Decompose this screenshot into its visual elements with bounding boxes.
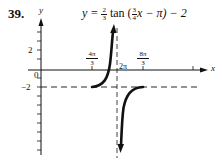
x-tick-label-8pi-3: 8π3 (137, 50, 149, 67)
y-axis-label: y (39, 5, 43, 15)
origin-label: 0 (34, 70, 39, 80)
curve-arrow-up-icon (110, 24, 116, 33)
x-axis-arrow-icon (200, 68, 208, 73)
x-tick-label-2pi: 2π (119, 62, 127, 71)
x-tick-label-4pi-3: 4π3 (86, 50, 98, 67)
y-axis-arrow-icon (39, 18, 44, 26)
curve-arrow-down-icon (118, 144, 125, 153)
curve-branch-right (121, 87, 143, 146)
y-tick-label-2: 2 (28, 45, 33, 55)
y-tick-label-minus-2: −2 (21, 82, 31, 92)
x-axis-label: x (211, 63, 215, 73)
y-axis-ticks (37, 32, 41, 150)
graph (0, 0, 222, 160)
